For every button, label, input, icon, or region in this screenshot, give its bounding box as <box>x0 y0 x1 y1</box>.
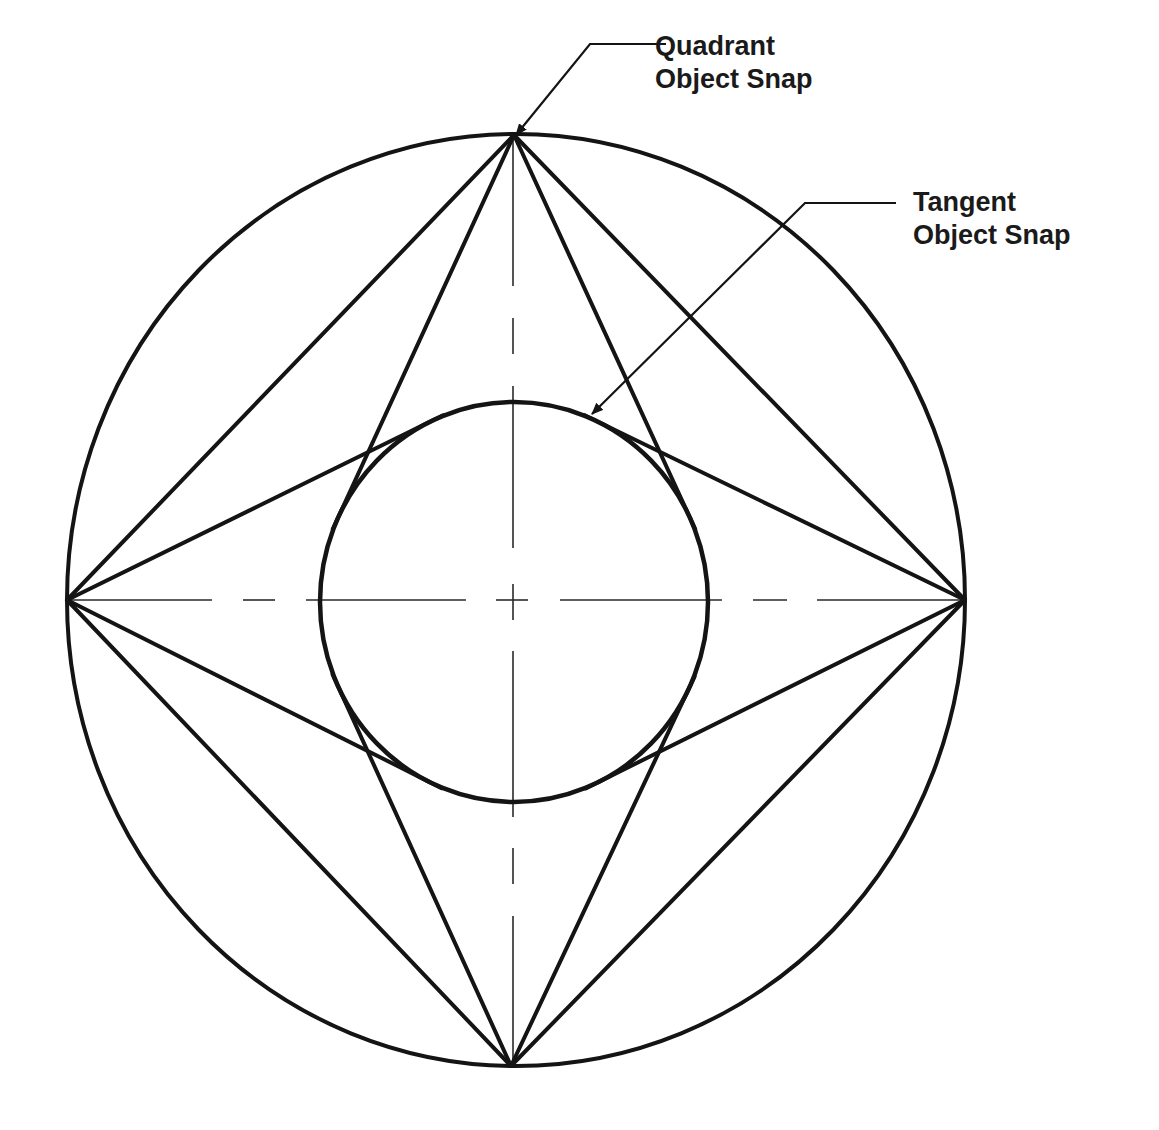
tangent-line-top-b <box>333 135 514 529</box>
centerlines <box>67 135 965 1066</box>
quadrant-label-line-1: Quadrant <box>655 30 813 63</box>
inner-circle <box>320 402 708 802</box>
tangent-line-left-b <box>67 600 442 788</box>
callout-leaders <box>516 44 896 414</box>
quadrant-connector-line-left-top <box>67 135 514 600</box>
quadrant-connector-line-top-right <box>514 135 965 600</box>
quadrant-object-snap-label: Quadrant Object Snap <box>655 30 813 96</box>
tangent-object-snap-label: Tangent Object Snap <box>913 186 1071 252</box>
tangent-line-top-a <box>514 135 695 529</box>
quadrant-connector-line-bottom-left <box>67 600 511 1066</box>
tangent-line-right-b <box>584 415 965 600</box>
tangent-line-left-a <box>67 415 443 600</box>
diagram-canvas <box>0 0 1159 1130</box>
tangent-line-right-a <box>586 600 965 788</box>
tangent-line-bottom-a <box>333 674 511 1066</box>
tangent-label-line-2: Object Snap <box>913 219 1071 252</box>
tangent-line-bottom-b <box>511 677 695 1066</box>
quadrant-label-line-2: Object Snap <box>655 63 813 96</box>
inner-circle-shape <box>320 402 708 802</box>
tangent-leader-line <box>592 203 896 414</box>
tangent-label-line-1: Tangent <box>913 186 1071 219</box>
quadrant-connector-line-right-bottom <box>511 600 965 1066</box>
quadrant-leader-line <box>516 44 666 135</box>
